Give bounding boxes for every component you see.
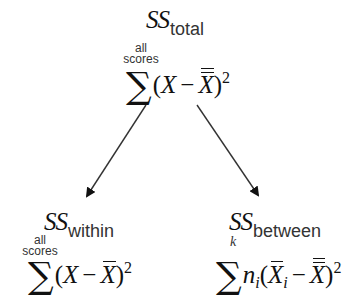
paren-close: ) (214, 71, 222, 98)
group-mean: X (100, 261, 115, 289)
ss-symbol: SS (146, 6, 169, 33)
ss-subscript: between (253, 221, 321, 241)
subscript-i: i (283, 274, 287, 291)
subscript-i: i (255, 274, 259, 291)
ss-symbol: SS (229, 208, 252, 235)
ss-subscript: within (68, 221, 114, 241)
ss-within-label: SSwithin (44, 208, 114, 236)
group-mean: X (268, 261, 283, 289)
summation-limit-k: k (226, 236, 240, 247)
minus-sign: − (180, 71, 194, 98)
exponent: 2 (222, 69, 230, 86)
ss-total-label: SStotal (146, 6, 204, 34)
paren-open: ( (260, 261, 268, 288)
var-x: X (161, 71, 176, 98)
exponent: 2 (333, 259, 341, 276)
ss-total-formula: ∑(X−X)2 (126, 60, 230, 101)
paren-open: ( (55, 261, 63, 288)
minus-sign: − (292, 261, 306, 288)
sigma-symbol: ∑ (216, 255, 242, 296)
grand-mean: X (198, 71, 213, 99)
ss-symbol: SS (44, 208, 67, 235)
var-x: X (63, 261, 78, 288)
arrow-total-to-between (197, 105, 258, 195)
exponent: 2 (124, 259, 132, 276)
grand-mean: X (310, 261, 325, 289)
paren-open: ( (153, 71, 161, 98)
paren-close: ) (116, 261, 124, 288)
ss-subscript: total (170, 19, 204, 39)
var-n: n (243, 261, 256, 288)
sigma-symbol: ∑ (28, 255, 54, 296)
ss-between-formula: ∑ni(Xi−X)2 (216, 250, 341, 291)
ss-within-formula: ∑(X−X)2 (28, 250, 132, 291)
minus-sign: − (82, 261, 96, 288)
arrow-total-to-within (87, 105, 146, 196)
sigma-symbol: ∑ (126, 65, 152, 106)
ss-between-label: SSbetween (229, 208, 321, 236)
